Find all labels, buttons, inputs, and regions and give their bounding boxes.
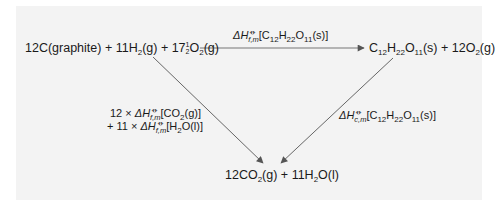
reactants-text: (g) bbox=[204, 41, 219, 55]
delta-h: ΔH bbox=[140, 120, 155, 132]
reactants-text: (g) + 17 bbox=[142, 41, 185, 55]
subscript: 12 bbox=[377, 115, 386, 124]
products-formation-label-line1: 12 × ΔHf,m⦵[CO2(g)] bbox=[110, 107, 201, 119]
node-text: O bbox=[405, 41, 415, 55]
label-text: O bbox=[403, 109, 412, 121]
node-text: (s) + 12O bbox=[423, 41, 475, 55]
subscript: 11 bbox=[415, 48, 423, 57]
label-text: O bbox=[296, 29, 305, 41]
node-text: (g) + 11H bbox=[262, 168, 314, 182]
reactants-text: O bbox=[189, 41, 199, 55]
label-text: [C bbox=[366, 109, 377, 121]
node-text: H bbox=[387, 41, 396, 55]
label-text: H bbox=[279, 29, 287, 41]
subscript: 22 bbox=[394, 115, 403, 124]
products-node: 12CO2(g) + 11H2O(l) bbox=[225, 168, 339, 182]
label-text: O(l)] bbox=[182, 120, 203, 132]
label-text: [C bbox=[259, 29, 270, 41]
formation-enthalpy-label: ΔHf,m⦵[C12H22O11(s)] bbox=[233, 29, 328, 41]
label-text: (g)] bbox=[185, 107, 202, 119]
subscript: 12 bbox=[270, 35, 279, 44]
sub: f,m bbox=[156, 126, 166, 135]
label-text: 12 × bbox=[110, 107, 135, 119]
products-formation-label-line2: + 11 × ΔHf,m⦵[H2O(l)] bbox=[107, 120, 203, 132]
node-text: C bbox=[369, 41, 378, 55]
label-text: (s)] bbox=[312, 29, 328, 41]
sub: c,m bbox=[354, 115, 366, 124]
subscript: 11 bbox=[412, 115, 420, 124]
combustion-enthalpy-label: ΔHc,m⦵[C12H22O11(s)] bbox=[339, 109, 436, 121]
reactants-text: 12C(graphite) + 11H bbox=[25, 41, 138, 55]
reactants-node: 12C(graphite) + 11H2(g) + 1712O2(g) bbox=[25, 41, 219, 55]
delta-h: ΔH bbox=[135, 107, 150, 119]
subscript: 22 bbox=[396, 48, 405, 57]
label-text: [H bbox=[166, 120, 177, 132]
sucrose-node: C12H22O11(s) + 12O2(g) bbox=[369, 41, 495, 55]
delta-h: ΔH bbox=[339, 109, 354, 121]
node-text: 12CO bbox=[225, 168, 258, 182]
subscript: 12 bbox=[378, 48, 387, 57]
node-text: O(l) bbox=[318, 168, 339, 182]
node-text: (g) bbox=[480, 41, 495, 55]
label-text: + 11 × bbox=[107, 120, 140, 132]
delta-h: ΔH bbox=[233, 29, 248, 41]
sub: f,m bbox=[248, 35, 258, 44]
label-text: (s)] bbox=[420, 109, 436, 121]
subscript: 22 bbox=[287, 35, 296, 44]
